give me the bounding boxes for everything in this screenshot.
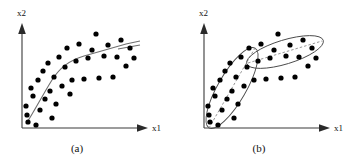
panel-b: x2 x1 [182, 0, 363, 163]
y-axis-label-a: x2 [17, 8, 26, 18]
x-axis-b [204, 124, 330, 132]
caption-a: (a) [71, 142, 84, 155]
cluster-1-ellipse [197, 41, 267, 135]
principal-curve-a [26, 41, 140, 124]
panel-a: x2 x1 [0, 0, 181, 163]
x-axis-a [22, 124, 148, 132]
y-axis-label-b: x2 [199, 8, 208, 18]
caption-b: (b) [253, 142, 266, 155]
y-axis-a [18, 23, 26, 128]
cluster-2-ellipse [243, 29, 327, 75]
x-axis-label-a: x1 [152, 123, 161, 133]
scatter-points-cluster-1 [205, 45, 260, 127]
figure-container: x2 x1 [0, 0, 363, 163]
x-axis-label-b: x1 [334, 123, 343, 133]
